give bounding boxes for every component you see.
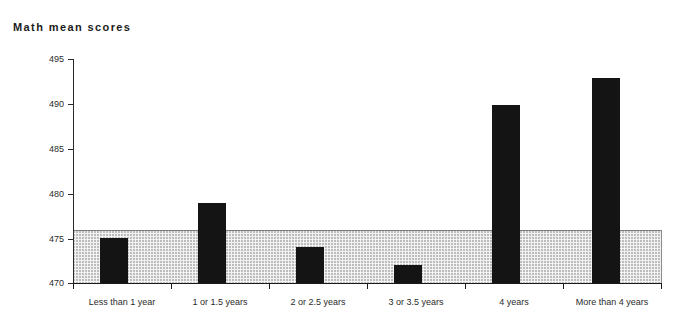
bar[interactable]: [100, 238, 128, 283]
x-axis-label: More than 4 years: [576, 297, 649, 307]
x-tick: [563, 283, 564, 289]
bar[interactable]: [492, 105, 520, 283]
x-tick: [73, 283, 74, 289]
bars-layer: [73, 60, 662, 283]
bar[interactable]: [394, 265, 422, 283]
y-axis-label: 480: [24, 190, 64, 199]
chart-root: Math mean scores 495 490 485 480 475 470: [0, 0, 695, 335]
y-axis-label: 475: [24, 235, 64, 244]
bar[interactable]: [198, 203, 226, 283]
x-axis-label: 2 or 2.5 years: [290, 297, 345, 307]
bar[interactable]: [592, 78, 620, 283]
y-axis-label: 495: [24, 55, 64, 64]
x-tick: [269, 283, 270, 289]
x-tick: [661, 283, 662, 289]
y-axis-label: 470: [24, 279, 64, 288]
x-tick: [171, 283, 172, 289]
chart-title: Math mean scores: [13, 21, 131, 33]
x-axis-label: Less than 1 year: [89, 297, 156, 307]
y-axis-label: 485: [24, 145, 64, 154]
x-axis-label: 1 or 1.5 years: [192, 297, 247, 307]
x-tick: [367, 283, 368, 289]
y-axis-label: 490: [24, 100, 64, 109]
bar[interactable]: [296, 247, 324, 283]
x-tick: [465, 283, 466, 289]
x-axis-label: 4 years: [499, 297, 529, 307]
x-axis-label: 3 or 3.5 years: [388, 297, 443, 307]
